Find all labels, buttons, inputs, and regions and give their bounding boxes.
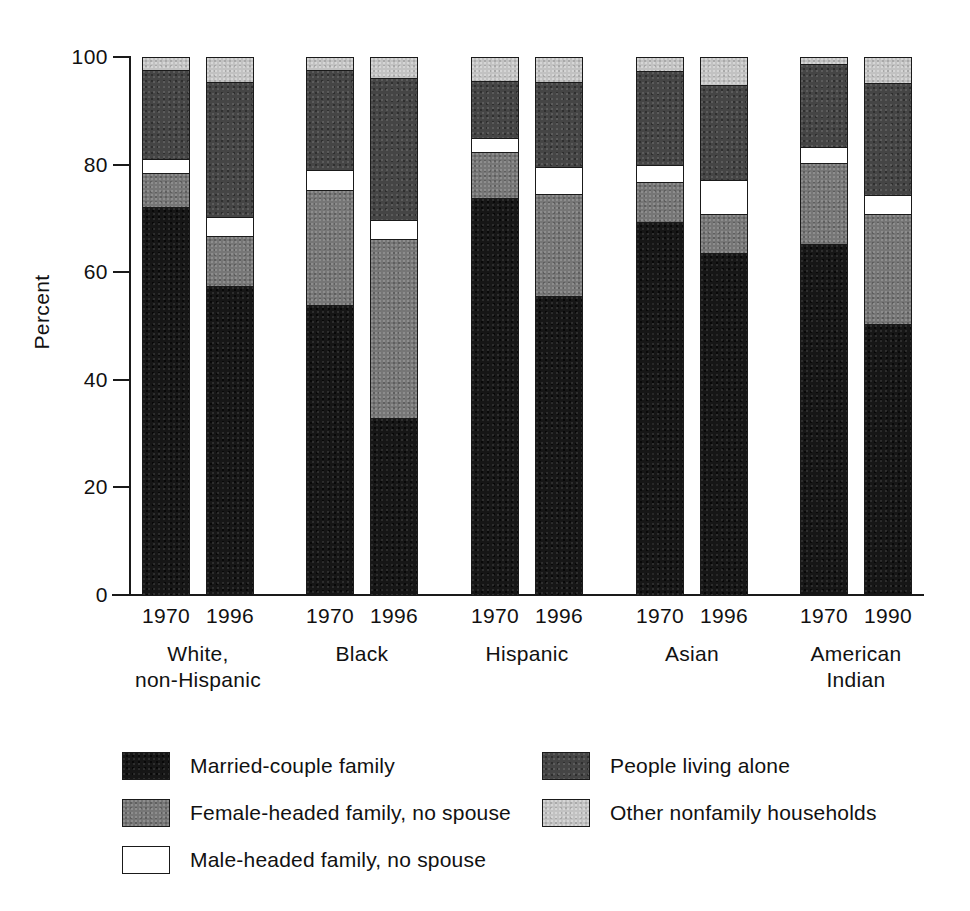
bar-segment-married [207, 286, 253, 595]
legend-label-female: Female-headed family, no spouse [190, 801, 511, 825]
bar-segment-female [143, 173, 189, 207]
x-year-label-black-1996: 1996 [359, 604, 429, 628]
y-tick-label-40: 40 [50, 369, 108, 390]
bar-segment-alone [637, 71, 683, 164]
group-label-line-1: Black [267, 641, 457, 667]
y-tick-label-text: 40 [60, 369, 108, 390]
bar-black-1970[interactable] [306, 57, 354, 595]
bar-segment-male [701, 180, 747, 214]
legend-item-female[interactable]: Female-headed family, no spouse [122, 789, 511, 836]
bar-hispanic-1970[interactable] [471, 57, 519, 595]
legend-label-male: Male-headed family, no spouse [190, 848, 486, 872]
bar-segment-female [536, 194, 582, 296]
bar-segment-female [307, 190, 353, 305]
bar-segment-other [637, 58, 683, 71]
legend-swatch-male [122, 846, 170, 874]
x-year-label-black-1970: 1970 [295, 604, 365, 628]
x-group-label-asian: Asian [597, 641, 787, 667]
y-tick-40 [113, 379, 130, 381]
legend-column-right: People living aloneOther nonfamily house… [542, 742, 877, 836]
legend-label-other: Other nonfamily households [610, 801, 877, 825]
bar-segment-married [637, 222, 683, 596]
bar-american-indian-1990[interactable] [864, 57, 912, 595]
legend-label-married: Married-couple family [190, 754, 395, 778]
bar-white-non-hispanic-1996[interactable] [206, 57, 254, 595]
bar-segment-alone [472, 81, 518, 139]
x-year-label-asian-1996: 1996 [689, 604, 759, 628]
bar-segment-male [472, 138, 518, 152]
bar-segment-other [207, 58, 253, 82]
bar-black-1996[interactable] [370, 57, 418, 595]
legend-swatch-alone [542, 752, 590, 780]
y-tick-label-text: 0 [60, 584, 108, 605]
legend-item-alone[interactable]: People living alone [542, 742, 877, 789]
stacked-bar-chart: Percent 100806040200 19701996White,non-H… [0, 0, 970, 911]
y-tick-label-20: 20 [50, 476, 108, 497]
bar-segment-married [307, 305, 353, 595]
bar-segment-alone [536, 82, 582, 167]
legend-swatch-married [122, 752, 170, 780]
bar-segment-married [472, 198, 518, 595]
bar-segment-other [371, 58, 417, 78]
bar-segment-female [701, 214, 747, 253]
bar-segment-alone [143, 70, 189, 159]
y-tick-label-100: 100 [50, 46, 108, 67]
bar-segment-married [801, 244, 847, 595]
y-tick-60 [113, 271, 130, 273]
bar-segment-other [536, 58, 582, 82]
bar-segment-other [307, 58, 353, 70]
legend-item-other[interactable]: Other nonfamily households [542, 789, 877, 836]
x-group-label-black: Black [267, 641, 457, 667]
bar-segment-other [701, 58, 747, 85]
group-label-line-1: White, [103, 641, 293, 667]
x-group-label-white-non-hispanic: White,non-Hispanic [103, 641, 293, 693]
x-year-label-asian-1970: 1970 [625, 604, 695, 628]
bar-segment-other [472, 58, 518, 81]
bar-segment-male [143, 159, 189, 172]
y-tick-label-text: 20 [60, 476, 108, 497]
legend-item-married[interactable]: Married-couple family [122, 742, 511, 789]
bar-white-non-hispanic-1970[interactable] [142, 57, 190, 595]
bar-segment-male [536, 167, 582, 194]
bar-segment-alone [207, 82, 253, 217]
legend-swatch-other [542, 799, 590, 827]
x-group-label-hispanic: Hispanic [432, 641, 622, 667]
group-label-line-1: Asian [597, 641, 787, 667]
bar-segment-alone [307, 70, 353, 170]
bar-hispanic-1996[interactable] [535, 57, 583, 595]
bar-segment-alone [371, 78, 417, 220]
y-tick-label-text: 100 [60, 46, 108, 67]
y-tick-100 [113, 56, 130, 58]
bar-segment-female [207, 236, 253, 286]
bar-segment-male [207, 217, 253, 236]
bar-segment-female [371, 239, 417, 418]
bar-segment-female [472, 152, 518, 198]
bar-segment-married [371, 418, 417, 595]
legend-item-male[interactable]: Male-headed family, no spouse [122, 836, 511, 883]
bar-segment-female [637, 182, 683, 222]
y-tick-20 [113, 486, 130, 488]
bar-segment-married [536, 296, 582, 595]
bar-asian-1996[interactable] [700, 57, 748, 595]
x-year-label-american-indian-1970: 1970 [789, 604, 859, 628]
bar-segment-female [865, 214, 911, 324]
bar-segment-alone [701, 85, 747, 180]
bar-segment-male [865, 195, 911, 214]
group-label-line-1: Hispanic [432, 641, 622, 667]
bar-segment-married [865, 324, 911, 595]
bar-segment-married [701, 253, 747, 595]
y-tick-label-0: 0 [50, 584, 108, 605]
plot-area [130, 57, 920, 595]
x-year-label-hispanic-1970: 1970 [460, 604, 530, 628]
y-tick-0 [113, 594, 130, 596]
group-label-line-2: non-Hispanic [103, 667, 293, 693]
y-tick-label-60: 60 [50, 261, 108, 282]
bar-segment-male [307, 170, 353, 190]
bar-segment-male [801, 147, 847, 163]
x-year-label-white-non-hispanic-1996: 1996 [195, 604, 265, 628]
bar-american-indian-1970[interactable] [800, 57, 848, 595]
legend-swatch-female [122, 799, 170, 827]
x-group-label-american-indian: AmericanIndian [761, 641, 951, 693]
bar-segment-other [143, 58, 189, 70]
bar-asian-1970[interactable] [636, 57, 684, 595]
